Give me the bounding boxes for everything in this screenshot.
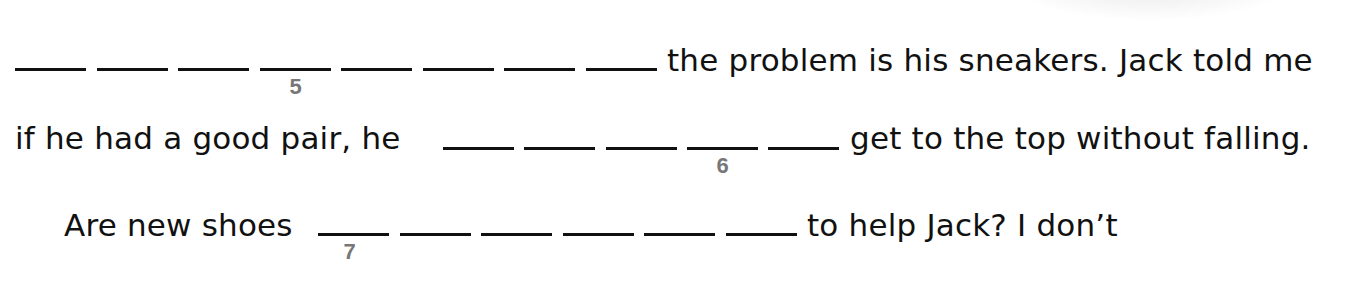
- answer-blank-numbered-6[interactable]: [687, 147, 758, 150]
- blank-number-label: 7: [314, 241, 385, 263]
- sentence-text: Are new shoes: [64, 205, 293, 245]
- sentence-text: if he had a good pair, he: [15, 118, 401, 158]
- answer-blank[interactable]: [341, 68, 412, 71]
- answer-blank[interactable]: [400, 233, 471, 236]
- answer-blank[interactable]: [423, 68, 494, 71]
- sentence-line-1: 5 the problem is his sneakers. Jack told…: [0, 40, 1360, 100]
- page-shadow-decoration: [1000, 0, 1300, 20]
- answer-blank[interactable]: [644, 233, 715, 236]
- answer-blank[interactable]: [768, 147, 839, 150]
- sentence-line-2: if he had a good pair, he 6 get to the t…: [0, 118, 1360, 178]
- blank-number-label: 5: [260, 76, 331, 98]
- sentence-line-3: Are new shoes 7 to help Jack? I don’t: [0, 205, 1360, 265]
- answer-blank[interactable]: [443, 147, 514, 150]
- answer-blank[interactable]: [524, 147, 595, 150]
- answer-blank[interactable]: [97, 68, 168, 71]
- answer-blank-numbered-5[interactable]: [260, 68, 331, 71]
- answer-blank[interactable]: [563, 233, 634, 236]
- answer-blank[interactable]: [15, 68, 86, 71]
- answer-blank[interactable]: [481, 233, 552, 236]
- answer-blank[interactable]: [586, 68, 657, 71]
- answer-blank[interactable]: [178, 68, 249, 71]
- sentence-text: the problem is his sneakers. Jack told m…: [667, 40, 1313, 80]
- answer-blank-numbered-7[interactable]: [318, 233, 389, 236]
- answer-blank[interactable]: [726, 233, 797, 236]
- answer-blank[interactable]: [606, 147, 677, 150]
- blank-number-label: 6: [687, 155, 758, 177]
- sentence-text: get to the top without falling.: [850, 118, 1311, 158]
- answer-blank[interactable]: [504, 68, 575, 71]
- sentence-text: to help Jack? I don’t: [807, 205, 1118, 245]
